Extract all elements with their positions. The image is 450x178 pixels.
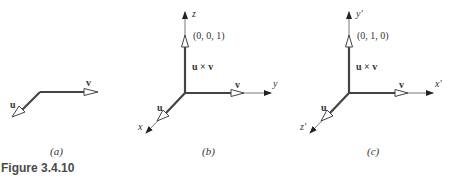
y-prime-axis-label: y′ (355, 8, 363, 19)
figure-caption: Figure 3.4.10 (1, 161, 74, 175)
vector-uxv-arrowhead-icon (346, 35, 353, 47)
z-axis-label: z (191, 8, 196, 19)
vector-u-label: u (321, 102, 327, 113)
vector-uxv-label: u × v (192, 61, 213, 72)
vector-u-line (166, 93, 185, 113)
tip-coordinates: (0, 0, 1) (193, 30, 225, 42)
tip-coordinates: (0, 1, 0) (357, 30, 389, 42)
vector-u-label: u (157, 102, 163, 113)
vector-v-label: v (86, 77, 91, 88)
y-axis-label: y (272, 78, 278, 89)
vector-u-line (330, 93, 349, 113)
vector-uxv-label: u × v (356, 61, 377, 72)
panel-a: u v (a) (10, 77, 98, 158)
vector-uxv-arrowhead-icon (182, 35, 189, 47)
x-axis-label: x (137, 121, 143, 132)
vector-v-arrowhead-icon (395, 90, 408, 97)
panel-a-sublabel: (a) (50, 145, 63, 158)
vector-u-line (22, 92, 40, 110)
panel-b-sublabel: (b) (202, 145, 215, 158)
panel-c: y′ x′ z′ (0, 1, 0) u × v v u (c) (299, 8, 442, 158)
diagram-canvas: u v (a) z y x (0, 0, 1) u × v (0, 0, 450, 178)
vector-v-arrowhead-icon (84, 89, 98, 96)
vector-v-arrowhead-icon (231, 90, 244, 97)
x-prime-axis-label: x′ (434, 78, 442, 89)
panel-b: z y x (0, 0, 1) u × v v u (b) (137, 8, 278, 158)
panel-c-sublabel: (c) (367, 145, 380, 158)
figure-3-4-10: u v (a) z y x (0, 0, 1) u × v (0, 0, 450, 178)
vector-v-label: v (399, 79, 404, 90)
vector-u-label: u (10, 99, 16, 110)
vector-v-label: v (235, 79, 240, 90)
z-prime-axis-label: z′ (299, 121, 307, 132)
